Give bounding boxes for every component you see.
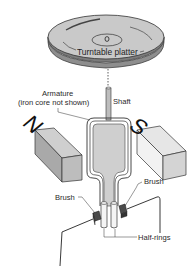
armature-coil — [87, 118, 131, 206]
label-shaft: Shaft — [113, 97, 132, 106]
dc-motor-turntable-diagram: Turntable platter N S — [0, 0, 196, 277]
magnet-north: N — [17, 111, 82, 182]
brush-left — [93, 211, 101, 225]
label-armature: Armature — [42, 89, 73, 98]
label-armature-note: (iron core not shown) — [18, 98, 90, 107]
shaft — [106, 87, 111, 120]
label-half-rings: Half-rings — [138, 233, 171, 242]
magnet-south: S — [124, 113, 186, 180]
turntable-platter: Turntable platter — [48, 15, 164, 68]
label-brush-right: Brush — [144, 177, 164, 186]
label-brush-left: Brush — [55, 193, 75, 202]
label-turntable-platter: Turntable platter — [77, 47, 138, 57]
wires — [60, 197, 160, 266]
brush-right — [119, 204, 127, 218]
